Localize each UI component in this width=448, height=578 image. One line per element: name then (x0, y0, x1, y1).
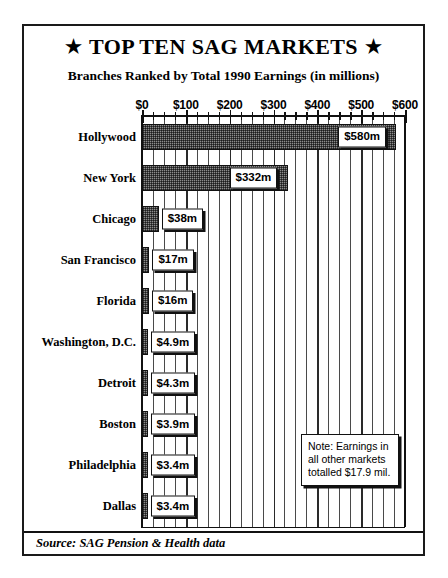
bar-value-label: $4.9m (151, 332, 196, 353)
poster-frame: ★TOP TEN SAG MARKETS★ Branches Ranked by… (22, 24, 425, 556)
bar-value-label: $17m (152, 249, 193, 270)
axis-tick (295, 112, 296, 120)
bar-value-label: $332m (230, 167, 278, 188)
axis-tick (208, 112, 209, 120)
bar (142, 370, 148, 396)
bar-value-label: $38m (162, 208, 203, 229)
bar-value-label: $580m (338, 126, 386, 147)
gridline-minor (295, 116, 296, 527)
category-label: New York (28, 170, 142, 185)
bar-value-label: $3.9m (151, 414, 196, 435)
axis-tick (328, 112, 329, 120)
page-title-text: TOP TEN SAG MARKETS (89, 34, 358, 59)
note-line: Note: Earnings in (308, 440, 392, 453)
axis-tick (186, 110, 188, 123)
axis-tick (219, 112, 220, 120)
star-right-icon: ★ (358, 37, 389, 57)
axis-tick (197, 112, 198, 120)
note-box: Note: Earnings inall other marketstotall… (301, 434, 399, 486)
axis-tick (284, 112, 285, 120)
axis-tick (339, 112, 340, 120)
axis-tick (361, 110, 363, 123)
bar-value-label: $16m (152, 290, 193, 311)
bar (142, 329, 148, 355)
axis-tick (175, 112, 176, 120)
category-label: Hollywood (28, 129, 142, 144)
axis-tick (142, 110, 144, 123)
axis-tick (317, 110, 319, 123)
axis-tick (153, 112, 154, 120)
star-left-icon: ★ (58, 37, 89, 57)
axis-tick (306, 112, 307, 120)
note-line: totalled $17.9 mil. (308, 466, 392, 479)
axis-tick (350, 112, 351, 120)
category-label: Chicago (28, 211, 142, 226)
bar-value-label: $3.4m (151, 496, 196, 517)
source-text: Source: SAG Pension & Health data (36, 536, 225, 551)
axis-right-rule (404, 116, 406, 527)
category-label: Philadelphia (28, 458, 142, 473)
bar (142, 288, 149, 314)
category-label: Florida (28, 293, 142, 308)
axis-tick (230, 110, 232, 123)
bar (142, 411, 148, 437)
axis-tick (241, 112, 242, 120)
chart-subtitle: Branches Ranked by Total 1990 Earnings (… (24, 68, 423, 84)
y-axis-category-labels: HollywoodNew YorkChicagoSan FranciscoFlo… (24, 116, 142, 527)
axis-tick (274, 110, 276, 123)
source-divider (24, 531, 423, 533)
axis-tick (372, 112, 373, 120)
category-label: San Francisco (28, 252, 142, 267)
page-title: ★TOP TEN SAG MARKETS★ (24, 35, 423, 58)
bar (142, 452, 148, 478)
axis-tick (164, 112, 165, 120)
axis-tick (263, 112, 264, 120)
axis-tick (252, 112, 253, 120)
note-line: all other markets (308, 453, 392, 466)
bar (142, 206, 159, 232)
category-label: Washington, D.C. (28, 335, 142, 350)
category-label: Dallas (28, 499, 142, 514)
bar-value-label: $3.4m (151, 455, 196, 476)
category-label: Boston (28, 417, 142, 432)
axis-tick (383, 112, 384, 120)
category-label: Detroit (28, 376, 142, 391)
bar (142, 493, 148, 519)
bar-value-label: $4.3m (151, 373, 196, 394)
axis-tick (405, 110, 407, 123)
bar (142, 247, 149, 273)
axis-tick (394, 112, 395, 120)
